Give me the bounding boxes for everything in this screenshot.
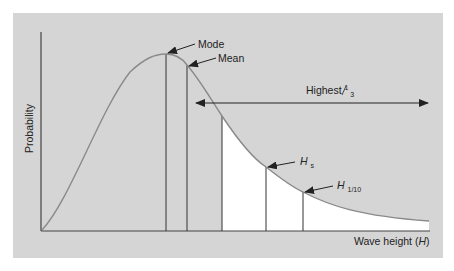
mean-label: Mean (218, 52, 244, 64)
mode-arrow (168, 44, 195, 53)
highest-third-label: Highest 1 3 (306, 80, 354, 98)
x-axis-label: Wave height (H) (354, 235, 429, 247)
mean-arrow (189, 58, 216, 66)
x-axis-label-text: Wave height ( (354, 235, 419, 247)
hs-main: H (300, 155, 308, 167)
h110-sub: 1/10 (348, 186, 362, 193)
mode-label: Mode (198, 38, 224, 50)
hs-sub: s (311, 162, 315, 169)
highest-third-region (222, 116, 429, 231)
highest-third-text: Highest (306, 84, 345, 96)
y-axis-label: Probability (23, 103, 35, 153)
hs-label: H s (300, 155, 315, 169)
hs-arrow (268, 162, 295, 167)
wave-height-distribution-diagram: Mode Mean Highest 1 3 H s H 1/10 Wave he… (0, 0, 454, 271)
h110-main: H (337, 179, 345, 191)
h110-label: H 1/10 (337, 179, 361, 193)
highest-third-denominator: 3 (350, 91, 354, 98)
x-axis-label-close: ) (426, 235, 430, 247)
h110-arrow (305, 186, 333, 192)
